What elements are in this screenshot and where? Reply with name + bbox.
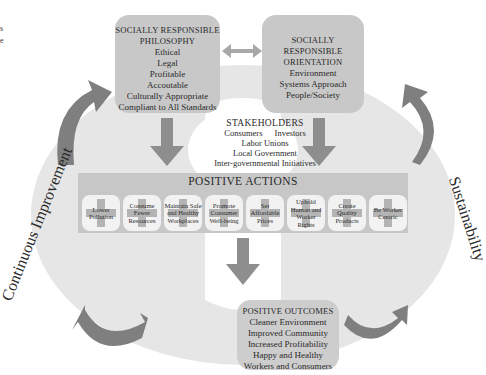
action-label: Consume Fewer Resources xyxy=(123,202,161,225)
outcomes-title: POSITIVE OUTCOMES xyxy=(237,306,339,317)
action-label: Create Quality Products xyxy=(328,202,366,225)
action-card: Be Worker Centric xyxy=(369,195,407,231)
action-card: Consume Fewer Resources xyxy=(123,195,161,231)
action-card: Lower Pollution xyxy=(82,195,120,231)
action-card: Uphold Human and Worker Rights xyxy=(287,195,325,231)
philosophy-item: Profitable xyxy=(115,69,220,80)
philosophy-item: Accoutable xyxy=(115,80,220,91)
philosophy-title-line2: PHILOSOPHY xyxy=(115,36,220,47)
action-label: Be Worker Centric xyxy=(369,206,407,221)
stakeholders-title: STAKEHOLDERS xyxy=(190,118,340,128)
outcome-item: Increased Profitability xyxy=(237,339,339,350)
orientation-title-line2: ORIENTATION xyxy=(262,57,364,68)
philosophy-box: SOCIALLY RESPONSIBLE PHILOSOPHY Ethical … xyxy=(115,15,220,113)
positive-actions-title: POSITIVE ACTIONS xyxy=(78,175,408,187)
action-card: Create Quality Products xyxy=(328,195,366,231)
stakeholder-item: Inter-governmental Initiatives xyxy=(190,158,340,168)
outcome-item: Workers and Consumers xyxy=(237,361,339,372)
positive-actions-panel: POSITIVE ACTIONS Lower Pollution Consume… xyxy=(78,173,408,233)
action-card: Promote Consumer Well-being xyxy=(205,195,243,231)
action-label: Uphold Human and Worker Rights xyxy=(287,198,325,228)
action-label: Set Affordable Prices xyxy=(246,202,284,225)
stakeholder-item: Consumers xyxy=(224,128,262,138)
orientation-item: Systems Approach xyxy=(262,79,364,90)
outcome-item: Happy and Healthy xyxy=(237,350,339,361)
stakeholder-item: Investors xyxy=(275,128,306,138)
philosophy-item: Compliant to All Standards xyxy=(115,102,220,113)
action-card: Set Affordable Prices xyxy=(246,195,284,231)
outcomes-box: POSITIVE OUTCOMES Cleaner Environment Im… xyxy=(237,300,339,370)
outcome-item: Cleaner Environment xyxy=(237,317,339,328)
stakeholder-item: Labor Unions xyxy=(190,138,340,148)
philosophy-item: Legal xyxy=(115,58,220,69)
edge-text-fragment: e xyxy=(0,36,4,45)
orientation-item: Environment xyxy=(262,68,364,79)
orientation-item: People/Society xyxy=(262,90,364,101)
action-label: Promote Consumer Well-being xyxy=(205,202,243,225)
stakeholders-block: STAKEHOLDERS Consumers Investors Labor U… xyxy=(190,118,340,168)
double-arrow-icon xyxy=(222,44,262,58)
philosophy-title-line1: SOCIALLY RESPONSIBLE xyxy=(115,25,220,36)
outcome-item: Improved Community xyxy=(237,328,339,339)
philosophy-item: Culturally Appropriate xyxy=(115,91,220,102)
action-label: Maintain Safe and Healthy Workplaces xyxy=(164,202,202,225)
action-card: Maintain Safe and Healthy Workplaces xyxy=(164,195,202,231)
stakeholder-item: Local Government xyxy=(190,148,340,158)
edge-text-fragment: s xyxy=(0,24,3,33)
philosophy-item: Ethical xyxy=(115,47,220,58)
orientation-title-line1: SOCIALLY RESPONSIBLE xyxy=(262,35,364,57)
orientation-box: SOCIALLY RESPONSIBLE ORIENTATION Environ… xyxy=(262,15,364,113)
action-label: Lower Pollution xyxy=(82,206,120,221)
diagram-canvas: s e SOCIALLY RESPONSIBLE PHILOSOPHY Ethi… xyxy=(0,0,486,375)
